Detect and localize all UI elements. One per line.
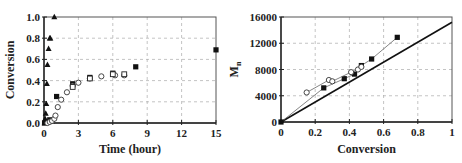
x-tick-label: 0.4	[343, 126, 357, 138]
data-point	[64, 90, 69, 95]
x-tick-label: 3	[76, 127, 82, 139]
data-point	[87, 76, 92, 81]
x-tick-label: 0.6	[377, 126, 391, 138]
data-point	[55, 105, 60, 110]
data-point	[110, 72, 115, 77]
data-point	[76, 80, 81, 85]
x-tick-label: 1	[449, 126, 455, 138]
y-tick-label: 4000	[255, 90, 278, 102]
data-point	[53, 113, 58, 118]
chart-1: 036912150.00.20.40.60.81.0Time (hour)Con…	[3, 11, 222, 156]
x-axis-title: Conversion	[337, 142, 396, 156]
x-tick-label: 0.2	[308, 126, 322, 138]
data-point	[369, 56, 374, 61]
data-point	[54, 94, 59, 99]
gridlines	[44, 17, 216, 123]
y-tick-label: 0	[272, 116, 278, 128]
y-tick-label: 12000	[250, 37, 278, 49]
data-point	[349, 70, 354, 75]
data-point	[321, 85, 326, 90]
series-theoretical-line	[281, 22, 452, 122]
data-point	[47, 35, 53, 40]
x-tick-label: 0.8	[411, 126, 425, 138]
y-tick-label: 0.8	[26, 32, 40, 44]
x-tick-label: 0	[278, 126, 284, 138]
data-point	[304, 90, 309, 95]
x-tick-label: 9	[144, 127, 150, 139]
data-point	[99, 74, 104, 79]
data-point	[122, 72, 127, 77]
series-filled-squares	[278, 35, 399, 125]
y-axis-title: Conversion	[3, 40, 17, 99]
data-point	[278, 119, 283, 124]
y-tick-label: 8000	[255, 64, 278, 76]
chart-2: 00.20.40.60.810400080001200016000Convers…	[227, 11, 455, 156]
y-tick-label: 0.6	[26, 53, 40, 65]
figure: 036912150.00.20.40.60.81.0Time (hour)Con…	[0, 0, 462, 163]
data-point	[44, 81, 50, 86]
x-tick-label: 0	[41, 127, 47, 139]
data-point	[133, 64, 138, 69]
y-tick-label: 0.2	[26, 96, 40, 108]
data-point	[46, 46, 52, 51]
y-tick-label: 16000	[250, 11, 278, 23]
y-tick-label: 1.0	[26, 11, 40, 23]
data-point	[44, 62, 50, 67]
x-axis-title: Time (hour)	[99, 142, 161, 156]
data-point	[395, 35, 400, 40]
data-point	[330, 79, 335, 84]
y-tick-label: 0.0	[26, 117, 40, 129]
y-axis: 0400080001200016000	[250, 11, 285, 128]
plot-frame	[44, 17, 216, 123]
data-point	[359, 64, 364, 69]
data-point	[59, 97, 64, 102]
data-point	[342, 76, 347, 81]
data-point	[213, 47, 218, 52]
y-axis-title: Mn	[227, 61, 243, 77]
x-tick-label: 15	[211, 127, 223, 139]
series-filled-squares	[42, 47, 219, 125]
x-tick-label: 12	[176, 127, 188, 139]
y-tick-label: 0.4	[26, 75, 40, 87]
data-point	[70, 85, 75, 90]
x-tick-label: 6	[110, 127, 116, 139]
charts-canvas: 036912150.00.20.40.60.81.0Time (hour)Con…	[0, 0, 462, 163]
